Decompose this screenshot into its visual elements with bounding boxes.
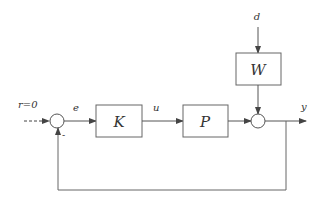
- summing-junction-2: [251, 114, 265, 128]
- output-label: y: [300, 101, 307, 112]
- block-diagram: r=0 - e K u P d W y: [0, 0, 326, 203]
- reference-label: r=0: [18, 99, 38, 110]
- plant-label: P: [199, 113, 211, 131]
- feedback-path: [58, 121, 286, 190]
- weight-label: W: [250, 61, 267, 79]
- error-label: e: [73, 102, 79, 113]
- disturbance-label: d: [254, 11, 260, 22]
- feedback-sign: -: [62, 130, 65, 140]
- summing-junction-1: [50, 114, 64, 128]
- controller-label: K: [112, 113, 125, 131]
- control-label: u: [153, 102, 159, 113]
